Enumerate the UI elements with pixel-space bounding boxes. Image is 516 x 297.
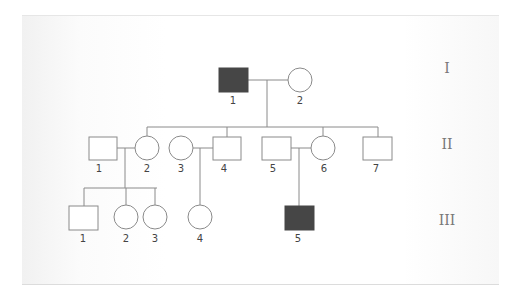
label-II-5: 5 xyxy=(270,163,276,174)
individual-III-5-affected-male xyxy=(285,206,314,230)
generation-label-III: III xyxy=(439,212,456,228)
individual-I-2-female xyxy=(288,68,312,92)
individual-III-1-male xyxy=(69,206,98,230)
label-III-2: 2 xyxy=(123,233,129,244)
generation-label-II: II xyxy=(441,136,452,152)
generation-label-I: I xyxy=(444,60,450,76)
label-II-3: 3 xyxy=(178,163,184,174)
label-III-1: 1 xyxy=(80,233,86,244)
individual-II-6-female xyxy=(311,136,335,160)
individual-III-2-female xyxy=(114,205,138,229)
individual-II-7-male xyxy=(363,137,392,160)
individual-II-1-male xyxy=(89,137,117,160)
individual-II-5-male xyxy=(262,137,291,160)
individual-III-3-female xyxy=(143,205,167,229)
label-II-2: 2 xyxy=(144,163,150,174)
label-II-4: 4 xyxy=(221,163,227,174)
individual-III-4-female xyxy=(188,205,212,229)
individual-II-2-female xyxy=(135,136,159,160)
label-II-7: 7 xyxy=(373,163,379,174)
label-I-1: 1 xyxy=(230,95,236,106)
label-III-5: 5 xyxy=(295,233,301,244)
label-II-1: 1 xyxy=(96,163,102,174)
individual-II-3-female xyxy=(169,136,193,160)
pedigree-chart: 1 2 1 2 3 4 5 6 7 1 2 3 4 5 I II III xyxy=(0,0,516,297)
label-II-6: 6 xyxy=(321,163,327,174)
label-III-3: 3 xyxy=(152,233,158,244)
label-III-4: 4 xyxy=(197,233,203,244)
individual-II-4-male xyxy=(213,137,241,160)
individual-I-1-affected-male xyxy=(219,68,248,92)
label-I-2: 2 xyxy=(297,95,303,106)
